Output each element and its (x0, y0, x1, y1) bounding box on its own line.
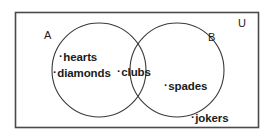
bullet-point-icon: · (59, 50, 63, 62)
element-clubs-text: clubs (121, 66, 151, 78)
element-jokers-text: jokers (195, 112, 228, 124)
element-hearts-text: hearts (63, 51, 97, 63)
bullet-point-icon: · (53, 66, 57, 78)
element-spades: ·spades (164, 81, 207, 93)
bullet-point-icon: · (191, 111, 195, 123)
element-spades-text: spades (168, 80, 207, 92)
bullet-point-icon: · (164, 79, 168, 91)
element-hearts: ·hearts (59, 52, 97, 64)
venn-diagram: A B U ·hearts ·diamonds ·clubs ·spades ·… (0, 0, 276, 140)
element-clubs: ·clubs (117, 67, 151, 79)
universal-set-label: U (238, 18, 246, 29)
element-jokers: ·jokers (191, 113, 229, 125)
set-label-b: B (208, 32, 215, 43)
set-label-a: A (44, 30, 51, 41)
element-diamonds-text: diamonds (57, 67, 111, 79)
bullet-point-icon: · (117, 65, 121, 77)
element-diamonds: ·diamonds (53, 68, 111, 80)
